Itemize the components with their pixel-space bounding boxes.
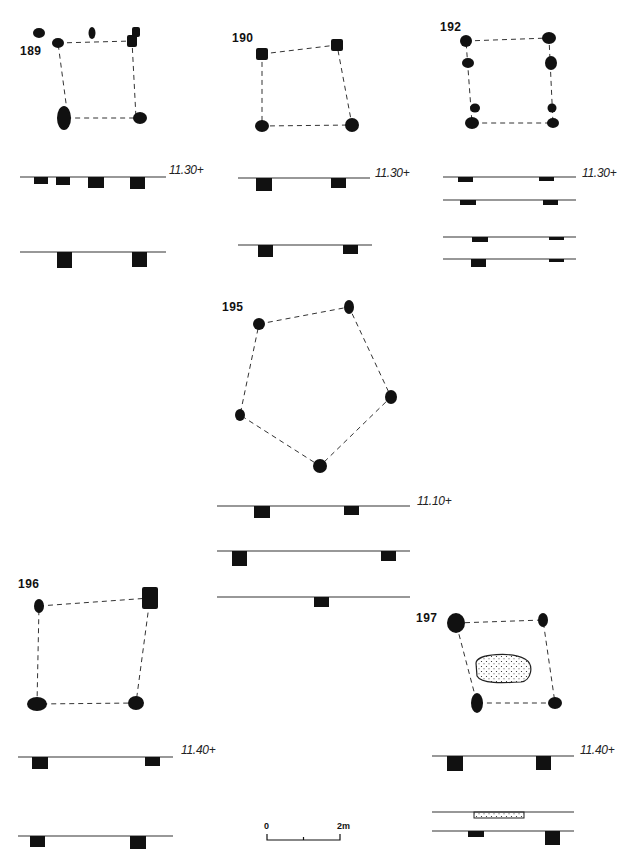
section-189: [20, 252, 166, 268]
section-190: [238, 178, 370, 191]
posthole: [27, 697, 47, 711]
posthole: [548, 104, 557, 113]
posthole-section: [344, 506, 359, 515]
section-196: [18, 836, 173, 849]
posthole-section: [543, 200, 558, 205]
plan-192: [460, 32, 559, 129]
posthole: [345, 118, 359, 132]
section-profiles: [18, 177, 576, 849]
section-195: [217, 551, 410, 566]
elevation-label: 11.30+: [375, 166, 409, 180]
posthole-section: [258, 245, 273, 257]
site-plan-canvas: [0, 0, 627, 853]
posthole-section: [343, 245, 358, 254]
posthole: [142, 587, 158, 609]
dashed-outline: [262, 45, 352, 126]
pit-section: [474, 812, 524, 818]
posthole-section: [472, 237, 488, 242]
posthole-section: [145, 757, 160, 766]
posthole-plans: [27, 27, 562, 713]
posthole: [34, 599, 44, 613]
posthole-section: [549, 237, 564, 240]
posthole-section: [458, 177, 473, 182]
extra-posthole: [33, 28, 45, 38]
posthole: [331, 39, 343, 51]
posthole: [545, 56, 557, 70]
section-197: [432, 812, 574, 818]
structure-number-192: 192: [440, 20, 462, 34]
section-192: [443, 200, 576, 205]
posthole-section: [130, 836, 146, 849]
posthole: [460, 35, 472, 47]
posthole: [465, 117, 479, 129]
structure-number-197: 197: [416, 611, 438, 625]
extra-posthole: [132, 27, 140, 37]
posthole-section: [447, 756, 463, 771]
posthole-section: [88, 177, 104, 188]
posthole: [256, 48, 268, 60]
elevation-label: 11.30+: [169, 163, 203, 177]
posthole: [235, 409, 245, 421]
posthole-section: [232, 551, 247, 566]
posthole: [128, 696, 144, 710]
plan-190: [255, 39, 359, 132]
elevation-label: 11.10+: [417, 494, 451, 508]
posthole-section: [549, 259, 564, 262]
stippled-pit-feature: [476, 654, 531, 682]
section-192: [443, 237, 576, 242]
posthole-section: [381, 551, 396, 561]
posthole: [470, 104, 480, 113]
posthole: [344, 300, 354, 314]
posthole-section: [30, 836, 45, 847]
elevation-label: 11.40+: [181, 743, 215, 757]
posthole: [253, 318, 265, 330]
structure-number-189: 189: [20, 44, 42, 58]
scale-bar: [267, 834, 340, 840]
dashed-outline: [37, 598, 150, 704]
posthole-section: [130, 177, 145, 189]
posthole: [542, 32, 556, 44]
plan-195: [235, 300, 397, 473]
posthole-section: [468, 831, 484, 837]
posthole-section: [471, 259, 486, 267]
posthole: [52, 38, 64, 48]
posthole-section: [536, 756, 551, 770]
dashed-outline: [240, 307, 391, 466]
posthole-section: [314, 597, 329, 607]
section-197: [432, 756, 574, 771]
posthole: [548, 697, 562, 709]
posthole-section: [331, 178, 346, 188]
posthole-section: [545, 831, 560, 845]
posthole: [255, 120, 269, 132]
plan-197: [447, 613, 562, 713]
posthole-section: [32, 757, 48, 769]
dashed-outline: [58, 41, 136, 118]
structure-number-195: 195: [222, 300, 244, 314]
posthole: [538, 613, 548, 627]
posthole-section: [256, 178, 272, 191]
plan-196: [27, 587, 158, 711]
section-192: [443, 259, 576, 267]
structure-number-190: 190: [232, 31, 254, 45]
posthole: [57, 106, 71, 130]
section-192: [443, 177, 576, 182]
elevation-label: 11.40+: [580, 743, 614, 757]
posthole: [133, 112, 147, 124]
section-195: [217, 506, 410, 518]
posthole: [547, 118, 559, 128]
scale-end-label: 2m: [337, 821, 350, 831]
section-189: [20, 177, 166, 189]
elevation-label: 11.30+: [582, 166, 616, 180]
posthole-section: [57, 252, 72, 268]
posthole-section: [539, 177, 554, 181]
extra-posthole: [89, 27, 96, 39]
posthole-section: [460, 200, 476, 205]
structure-number-196: 196: [18, 577, 40, 591]
posthole-section: [132, 252, 147, 267]
posthole: [447, 613, 465, 633]
plan-189: [33, 27, 147, 130]
posthole: [385, 390, 397, 404]
section-195: [217, 597, 410, 607]
posthole-section: [34, 177, 48, 184]
section-197: [432, 831, 574, 845]
